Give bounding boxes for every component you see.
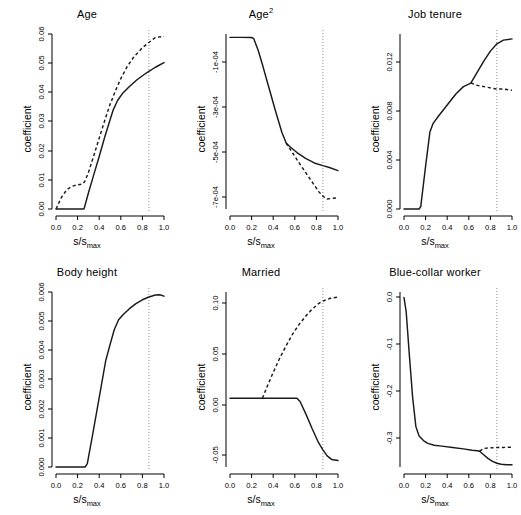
y-tick-label: 0.05 [37,56,46,71]
x-tick-label: 0.4 [268,223,279,232]
x-tick-label: 0.0 [225,223,236,232]
y-tick-label: 0.03 [37,114,46,129]
x-tick-label: 0.6 [290,223,301,232]
x-tick-label: 0.8 [485,223,496,232]
panel-title: Blue-collar worker [348,264,521,278]
y-tick-label: 0.04 [37,85,46,100]
series-dashed-path [471,83,512,90]
x-tick-label: 0.4 [268,481,279,490]
y-tick-label: -0.2 [385,384,394,397]
y-tick-label: 0.003 [37,369,46,388]
x-axis-label: s/smax [0,235,174,250]
x-tick-label: 0.4 [442,481,453,490]
panel-age-squared: Age2 coefficient s/smax -1e-04 -3e-04 -5… [174,0,348,258]
panel-title: Married [174,264,348,278]
x-axis: 0.0 0.2 0.4 0.6 0.8 1.0 [225,474,344,490]
y-tick-label: -5e-04 [211,141,220,163]
panel-title: Body height [0,264,174,278]
series-dashed-path [262,297,338,398]
y-tick-label: 0.001 [37,428,46,447]
x-axis-label: s/smax [348,235,521,250]
y-tick-label: 0.006 [37,282,46,301]
y-axis-label: coefficient [21,363,33,410]
x-tick-label: 0.0 [399,223,410,232]
x-tick-label: 0.4 [94,223,105,232]
x-tick-label: 1.0 [333,223,344,232]
y-axis-label: coefficient [21,105,33,152]
x-axis-label: s/smax [348,493,521,508]
y-tick-label: 0.004 [385,150,394,169]
y-tick-label: 0.008 [385,101,394,120]
y-axis: 0.000 0.004 0.008 0.012 [385,34,400,219]
x-axis: 0.0 0.2 0.4 0.6 0.8 1.0 [225,216,344,232]
x-tick-label: 0.8 [311,223,322,232]
x-tick-label: 0.0 [51,223,62,232]
y-axis-label: coefficient [195,105,207,152]
x-tick-label: 0.8 [311,481,322,490]
x-tick-label: 1.0 [333,481,344,490]
x-tick-label: 0.6 [116,223,127,232]
x-tick-label: 1.0 [507,223,518,232]
x-tick-label: 0.0 [51,481,62,490]
y-axis-label: coefficient [369,105,381,152]
x-tick-label: 1.0 [507,481,518,490]
x-tick-label: 0.2 [420,481,431,490]
y-tick-label: 0.004 [37,340,46,359]
panel-body-height: Body height coefficient s/smax 0.000 0.0… [0,258,174,515]
x-axis: 0.0 0.2 0.4 0.6 0.8 1.0 [399,216,518,232]
panel-job-tenure: Job tenure coefficient s/smax 0.000 0.00… [348,0,521,258]
x-tick-label: 0.6 [464,223,475,232]
x-tick-label: 0.2 [72,481,83,490]
x-axis-label: s/smax [0,493,174,508]
series-dashed-path [286,143,338,199]
y-tick-label: 0.000 [385,199,394,218]
series-solid-path [230,398,338,460]
y-tick-label: 0.00 [37,202,46,217]
y-tick-label: 0.000 [37,457,46,476]
x-tick-label: 0.4 [94,481,105,490]
y-tick-label: -3e-04 [211,96,220,118]
x-tick-label: 0.2 [72,223,83,232]
panel-blue-collar-worker: Blue-collar worker coefficient s/smax 0.… [348,258,521,515]
y-tick-label: 0.00 [211,398,220,413]
x-tick-label: 0.6 [290,481,301,490]
series-solid-path [230,37,338,170]
x-tick-label: 0.4 [442,223,453,232]
x-tick-label: 1.0 [159,223,170,232]
x-axis: 0.0 0.2 0.4 0.6 0.8 1.0 [51,216,170,232]
x-tick-label: 0.2 [420,223,431,232]
x-tick-label: 0.2 [246,481,257,490]
y-axis-label: coefficient [369,363,381,410]
y-axis: 0.000 0.001 0.002 0.003 0.004 0.005 0.00… [37,282,52,476]
series-solid-path [56,63,164,209]
x-tick-label: 0.0 [399,481,410,490]
y-tick-label: -0.1 [385,337,394,350]
y-tick-label: 0.005 [37,311,46,330]
panel-married: Married coefficient s/smax -0.05 0.00 0.… [174,258,348,515]
series-solid-path [404,39,512,209]
x-axis-label: s/smax [174,493,348,508]
x-tick-label: 0.0 [225,481,236,490]
x-tick-label: 0.8 [485,481,496,490]
series-dashed-path [56,36,164,209]
y-axis: 0.00 0.01 0.02 0.03 0.04 0.05 0.06 [37,27,52,217]
y-tick-label: -1e-04 [211,51,220,73]
y-tick-label: 0.05 [211,347,220,362]
x-tick-label: 0.8 [137,481,148,490]
panel-title: Age [0,6,174,20]
figure-panel-grid: Age coefficient s/smax 0.00 0.01 0.02 0.… [0,0,521,515]
y-tick-label: 0.012 [385,52,394,71]
x-tick-label: 0.6 [464,481,475,490]
x-axis: 0.0 0.2 0.4 0.6 0.8 1.0 [51,474,170,490]
y-tick-label: -0.05 [211,446,220,463]
x-tick-label: 0.2 [246,223,257,232]
x-axis-label: s/smax [174,235,348,250]
y-tick-label: -0.3 [385,431,394,444]
x-tick-label: 0.8 [137,223,148,232]
x-axis: 0.0 0.2 0.4 0.6 0.8 1.0 [399,474,518,490]
y-axis: -1e-04 -3e-04 -5e-04 -7e-04 [211,34,226,209]
y-tick-label: 0.02 [37,144,46,159]
y-tick-label: 0.06 [37,27,46,42]
series-solid-path [404,298,512,465]
y-tick-label: 0.0 [385,292,394,303]
